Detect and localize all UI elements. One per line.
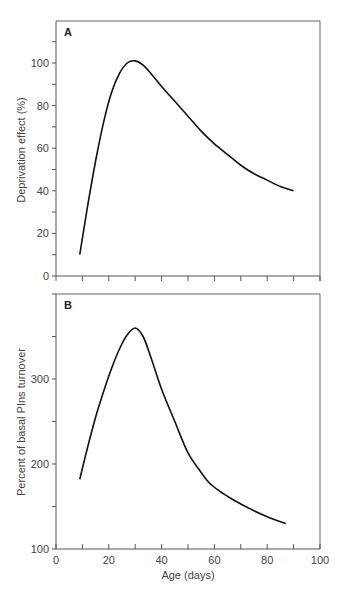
panel-a-letter: A bbox=[64, 26, 72, 38]
panel-b-letter: B bbox=[64, 299, 72, 311]
y-tick-label: 200 bbox=[31, 458, 49, 470]
x-tick-label: 60 bbox=[208, 554, 220, 566]
y-tick-label: 100 bbox=[31, 57, 49, 69]
panel-b-y-ticks: 100200300 bbox=[31, 294, 56, 555]
x-tick-label: 40 bbox=[155, 554, 167, 566]
figure: 020406080100 A Deprivation effect (%) 10… bbox=[0, 0, 341, 593]
x-tick-label: 0 bbox=[53, 554, 59, 566]
panel-a-x-ticks bbox=[56, 276, 320, 281]
y-tick-label: 300 bbox=[31, 373, 49, 385]
panel-a: 020406080100 A Deprivation effect (%) bbox=[15, 21, 320, 282]
x-tick-label: 20 bbox=[103, 554, 115, 566]
panel-a-curve bbox=[80, 61, 294, 255]
panel-b: 100200300 020406080100 B Percent of basa… bbox=[15, 294, 329, 581]
y-tick-label: 20 bbox=[37, 227, 49, 239]
panel-a-y-ticks: 020406080100 bbox=[31, 42, 56, 282]
x-tick-label: 100 bbox=[311, 554, 329, 566]
panel-b-curve bbox=[80, 328, 286, 524]
panel-b-x-axis-title: Age (days) bbox=[161, 569, 214, 581]
y-tick-label: 80 bbox=[37, 100, 49, 112]
y-tick-label: 60 bbox=[37, 142, 49, 154]
panel-b-x-ticks: 020406080100 bbox=[53, 544, 329, 566]
y-tick-label: 40 bbox=[37, 185, 49, 197]
y-tick-label: 0 bbox=[43, 270, 49, 282]
panel-a-y-axis-title: Deprivation effect (%) bbox=[15, 97, 27, 203]
y-tick-label: 100 bbox=[31, 543, 49, 555]
panel-b-y-axis-title: Percent of basal PIns turnover bbox=[15, 348, 27, 496]
x-tick-label: 80 bbox=[261, 554, 273, 566]
